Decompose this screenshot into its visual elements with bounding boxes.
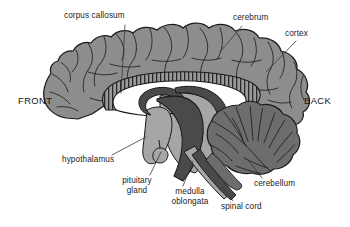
label-cerebellum-text: cerebellum	[254, 179, 295, 189]
label-cortex-text: cortex	[285, 29, 308, 39]
label-cortex: cortex	[285, 29, 308, 39]
label-cerebellum: cerebellum	[254, 179, 295, 189]
label-spinal-cord-text: spinal cord	[221, 202, 262, 212]
label-back: BACK	[304, 96, 331, 106]
label-spinal-cord: spinal cord	[221, 202, 262, 212]
label-hypothalamus-text: hypothalamus	[62, 155, 114, 165]
label-medulla-oblongata: medulla oblongata	[163, 187, 217, 207]
label-pituitary-line-2: gland	[114, 186, 160, 196]
label-pituitary-line-1: pituitary	[114, 176, 160, 186]
label-front: FRONT	[18, 96, 52, 106]
label-corpus-callosum: corpus callosum	[64, 11, 125, 21]
label-cerebrum-text: cerebrum	[233, 13, 268, 23]
label-front-text: FRONT	[18, 96, 52, 106]
label-corpus-callosum-text: corpus callosum	[64, 11, 125, 21]
leader-hypothalamus	[112, 137, 146, 155]
label-medulla-line-2: oblongata	[163, 197, 217, 207]
brain-diagram-figure: corpus callosum cerebrum cortex FRONT BA…	[0, 0, 350, 227]
label-medulla-line-1: medulla	[163, 187, 217, 197]
label-back-text: BACK	[304, 96, 331, 106]
label-hypothalamus: hypothalamus	[62, 155, 114, 165]
label-pituitary-gland: pituitary gland	[114, 176, 160, 196]
pituitary-gland-shape	[153, 148, 168, 163]
label-cerebrum: cerebrum	[233, 13, 268, 23]
